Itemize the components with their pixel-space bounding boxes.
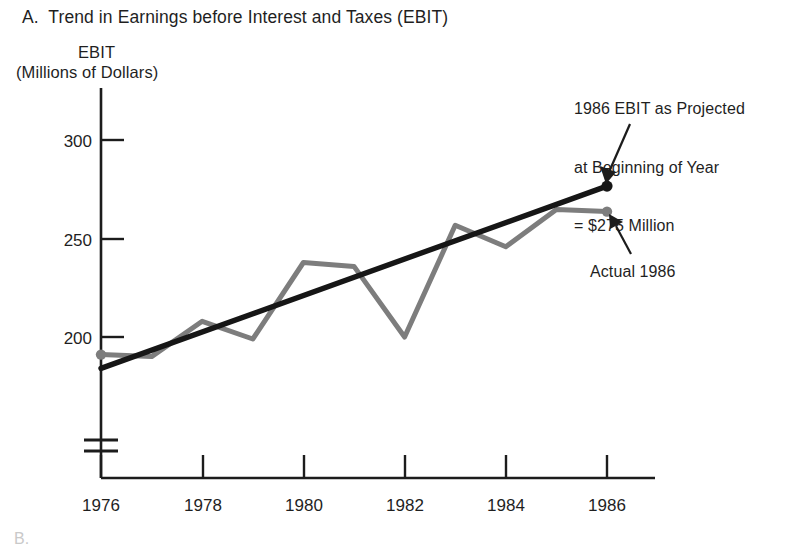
x-tick-label-1982: 1982	[386, 496, 424, 515]
series-endpoint-marker	[96, 349, 106, 359]
series-path	[101, 210, 607, 357]
x-axis-ticks	[101, 455, 607, 478]
figure-panel-a: A. Trend in Earnings before Interest and…	[0, 0, 792, 544]
projection-arrow-icon	[600, 124, 630, 184]
x-tick-label-1976: 1976	[82, 496, 120, 515]
y-tick-label-200: 200	[64, 329, 92, 348]
series-actual-ebit	[96, 206, 612, 359]
x-tick-label-1986: 1986	[588, 496, 626, 515]
x-tick-label-1984: 1984	[487, 496, 525, 515]
chart-plot-area: 300 250 200 1976 1978 1980 1982 1984 198…	[0, 0, 792, 544]
actual-arrow-icon	[609, 214, 631, 254]
series-path	[101, 186, 607, 368]
series-trend-line	[101, 181, 613, 369]
x-tick-label-1978: 1978	[184, 496, 222, 515]
x-tick-label-1980: 1980	[285, 496, 323, 515]
y-axis-ticks	[101, 140, 124, 337]
y-tick-label-250: 250	[64, 231, 92, 250]
y-tick-label-300: 300	[64, 132, 92, 151]
